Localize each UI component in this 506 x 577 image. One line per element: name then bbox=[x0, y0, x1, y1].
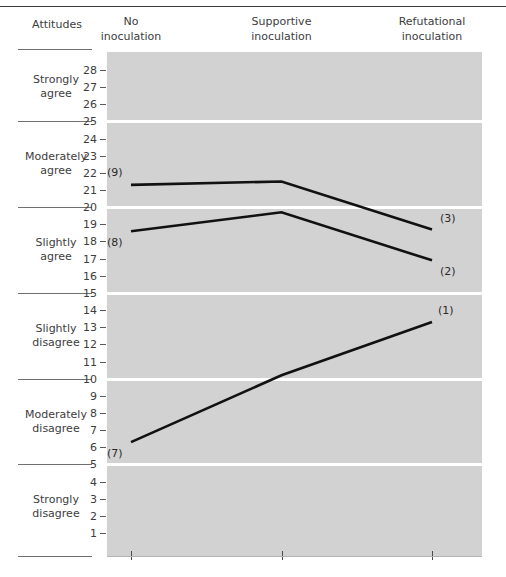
column-header-line: Refutational bbox=[367, 14, 497, 29]
y-tick-22 bbox=[100, 173, 106, 174]
y-tick-label-6: 6 bbox=[73, 442, 97, 453]
column-header-line: inoculation bbox=[367, 29, 497, 44]
y-tick-8 bbox=[100, 413, 106, 414]
y-tick-6 bbox=[100, 447, 106, 448]
y-tick-27 bbox=[100, 87, 106, 88]
attitudes-header-rule bbox=[18, 49, 92, 50]
y-tick-label-8: 8 bbox=[73, 408, 97, 419]
point-label-8: (8) bbox=[107, 237, 123, 248]
column-header-line: inoculation bbox=[217, 29, 347, 44]
y-tick-label-16: 16 bbox=[73, 271, 97, 282]
y-tick-label-2: 2 bbox=[73, 511, 97, 522]
y-tick-24 bbox=[100, 139, 106, 140]
y-tick-label-4: 4 bbox=[73, 477, 97, 488]
data-lines bbox=[107, 52, 482, 556]
column-header-line: Supportive bbox=[217, 14, 347, 29]
y-tick-label-12: 12 bbox=[73, 339, 97, 350]
y-tick-label-14: 14 bbox=[73, 305, 97, 316]
y-tick-label-25: 25 bbox=[73, 116, 97, 127]
point-label-2: (2) bbox=[440, 266, 456, 277]
y-tick-23 bbox=[100, 156, 106, 157]
band-rule-bottom bbox=[18, 556, 92, 557]
y-tick-label-27: 27 bbox=[73, 82, 97, 93]
y-tick-label-10: 10 bbox=[73, 374, 97, 385]
y-tick-label-24: 24 bbox=[73, 134, 97, 145]
y-tick-3 bbox=[100, 499, 106, 500]
y-tick-16 bbox=[100, 276, 106, 277]
y-tick-label-28: 28 bbox=[73, 65, 97, 76]
column-header-0: Noinoculation bbox=[66, 14, 196, 44]
y-tick-label-22: 22 bbox=[73, 168, 97, 179]
y-tick-13 bbox=[100, 327, 106, 328]
y-tick-11 bbox=[100, 362, 106, 363]
y-tick-label-13: 13 bbox=[73, 322, 97, 333]
column-header-1: Supportiveinoculation bbox=[217, 14, 347, 44]
y-tick-label-26: 26 bbox=[73, 99, 97, 110]
series-line-0 bbox=[131, 181, 432, 229]
y-tick-26 bbox=[100, 104, 106, 105]
y-tick-label-11: 11 bbox=[73, 357, 97, 368]
column-header-line: inoculation bbox=[66, 29, 196, 44]
y-tick-label-19: 19 bbox=[73, 219, 97, 230]
y-tick-label-9: 9 bbox=[73, 391, 97, 402]
y-tick-label-15: 15 bbox=[73, 288, 97, 299]
point-label-7: (7) bbox=[107, 448, 123, 459]
top-border-rule bbox=[0, 6, 506, 7]
figure-root: Attitudes StronglyagreeModeratelyagreeSl… bbox=[0, 0, 506, 577]
series-line-1 bbox=[131, 212, 432, 260]
y-tick-1 bbox=[100, 533, 106, 534]
y-tick-18 bbox=[100, 241, 106, 242]
y-tick-28 bbox=[100, 70, 106, 71]
y-tick-4 bbox=[100, 482, 106, 483]
y-tick-21 bbox=[100, 190, 106, 191]
y-tick-label-3: 3 bbox=[73, 494, 97, 505]
y-tick-7 bbox=[100, 430, 106, 431]
y-tick-17 bbox=[100, 259, 106, 260]
y-tick-2 bbox=[100, 516, 106, 517]
y-tick-label-5: 5 bbox=[73, 459, 97, 470]
x-axis-line bbox=[107, 556, 482, 557]
point-label-1: (1) bbox=[438, 305, 454, 316]
point-label-3: (3) bbox=[440, 213, 456, 224]
y-tick-label-1: 1 bbox=[73, 528, 97, 539]
y-tick-label-23: 23 bbox=[73, 151, 97, 162]
column-header-line: No bbox=[66, 14, 196, 29]
y-tick-14 bbox=[100, 310, 106, 311]
plot-area bbox=[107, 52, 482, 556]
y-tick-label-18: 18 bbox=[73, 236, 97, 247]
column-header-2: Refutationalinoculation bbox=[367, 14, 497, 44]
y-tick-12 bbox=[100, 344, 106, 345]
y-tick-label-17: 17 bbox=[73, 254, 97, 265]
y-tick-label-20: 20 bbox=[73, 202, 97, 213]
y-tick-19 bbox=[100, 224, 106, 225]
point-label-9: (9) bbox=[107, 167, 123, 178]
series-line-2 bbox=[131, 322, 432, 442]
y-tick-label-21: 21 bbox=[73, 185, 97, 196]
y-tick-9 bbox=[100, 396, 106, 397]
y-tick-label-7: 7 bbox=[73, 425, 97, 436]
